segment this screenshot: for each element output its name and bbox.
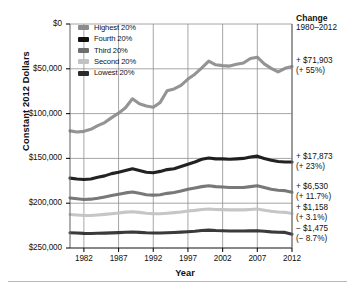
legend-label: Second 20% <box>94 58 136 66</box>
change-percent: (+ 3.1%) <box>296 213 328 223</box>
change-percent: (− 8.7%) <box>296 234 328 244</box>
y-tick-label: $0 <box>0 19 62 28</box>
change-amount: + $1,158 <box>296 203 328 213</box>
change-panel-header: Change 1980–2012 <box>296 13 337 33</box>
chart-figure: Constant 2012 Dollars $250,000$200,000$1… <box>0 0 355 288</box>
legend-item[interactable]: Third 20% <box>78 45 136 56</box>
legend-item[interactable]: Fourth 20% <box>78 33 136 44</box>
y-tick-label: $50,000 <box>0 64 62 73</box>
change-amount: + $6,530 <box>296 182 331 192</box>
legend-label: Third 20% <box>94 47 128 55</box>
change-annotation: − $1,475(− 8.7%) <box>296 224 328 243</box>
x-tick-label: 2012 <box>272 254 312 263</box>
y-axis-title: Constant 2012 Dollars <box>21 31 31 171</box>
x-axis-title: Year <box>125 268 245 278</box>
change-annotation: + $17,873(+ 23%) <box>296 152 333 171</box>
change-amount: + $17,873 <box>296 152 333 162</box>
series-lines <box>70 57 292 234</box>
change-annotation: + $71,903(+ 55%) <box>296 56 333 75</box>
legend-label: Lowest 20% <box>94 69 134 77</box>
y-tick-label: $150,000 <box>0 153 62 162</box>
y-tick-label: $100,000 <box>0 109 62 118</box>
legend-item[interactable]: Lowest 20% <box>78 68 136 79</box>
legend-swatch-icon <box>78 48 89 53</box>
legend-label: Fourth 20% <box>94 35 132 43</box>
change-amount: + $71,903 <box>296 56 333 66</box>
legend-item[interactable]: Highest 20% <box>78 22 136 33</box>
change-percent: (+ 55%) <box>296 66 333 76</box>
change-annotation: + $1,158(+ 3.1%) <box>296 203 328 222</box>
legend: Highest 20%Fourth 20%Third 20%Second 20%… <box>78 22 136 79</box>
change-panel-period: 1980–2012 <box>296 23 337 33</box>
legend-swatch-icon <box>78 71 89 76</box>
legend-item[interactable]: Second 20% <box>78 56 136 67</box>
change-percent: (+ 11.7%) <box>296 192 331 202</box>
footer-rule <box>8 281 347 282</box>
change-panel-title: Change <box>296 13 337 23</box>
y-tick-label: $200,000 <box>0 198 62 207</box>
legend-swatch-icon <box>78 37 89 42</box>
legend-swatch-icon <box>78 25 89 30</box>
change-annotation: + $6,530(+ 11.7%) <box>296 182 331 201</box>
legend-label: Highest 20% <box>94 24 136 32</box>
change-amount: − $1,475 <box>296 224 328 234</box>
change-percent: (+ 23%) <box>296 162 333 172</box>
legend-swatch-icon <box>78 59 89 64</box>
y-tick-label: $250,000 <box>0 243 62 252</box>
